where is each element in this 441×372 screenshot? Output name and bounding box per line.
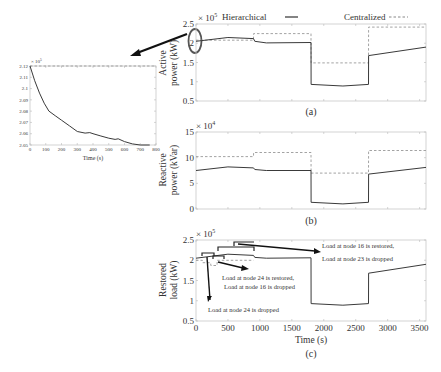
y-tick-label: 2.11 xyxy=(19,75,28,80)
panel-a: 0.511.522.5 × 105 Active power (kW) (a) … xyxy=(158,12,426,118)
svg-text:power (kVar): power (kVar) xyxy=(169,145,180,195)
panel-a-caption: (a) xyxy=(305,106,316,118)
y-tick-label: 2.12 xyxy=(19,64,28,69)
y-tick-label: 15 xyxy=(185,127,195,137)
y-tick-label: 1.5 xyxy=(183,58,195,68)
panel-b-ylabel: Reactive power (kVar) xyxy=(158,145,180,195)
svg-text:power (kW): power (kW) xyxy=(169,40,180,86)
x-tick-label: 0 xyxy=(194,323,199,333)
x-tick-label: 300 xyxy=(74,147,82,152)
y-tick-label: 2 xyxy=(190,38,195,48)
y-tick-label: 2.05 xyxy=(19,143,28,148)
y-tick-label: 1.5 xyxy=(183,276,195,286)
arrow-head-icon xyxy=(207,296,212,302)
annotation-node24-dropped: Load at node 24 is dropped xyxy=(208,306,280,313)
panel-a-ylabel: Active power (kW) xyxy=(158,40,180,86)
svg-text:Active: Active xyxy=(158,50,168,75)
y-tick-label: 5 xyxy=(190,178,195,188)
annotation-node16-restored: Load at node 16 is restored, xyxy=(322,242,395,249)
annotation-node24-restored: Load at node 24 is restored, xyxy=(222,274,295,281)
y-tick-label: 2 xyxy=(190,255,195,265)
x-tick-label: 3500 xyxy=(411,323,430,333)
legend-centralized-label: Centralized xyxy=(344,12,386,22)
arrow-head-icon xyxy=(314,248,321,254)
panel-b-caption: (b) xyxy=(305,215,317,227)
panel-c-exponent: × 105 xyxy=(196,228,215,239)
panel-c: 0.511.522.50500100015002000250030003500 … xyxy=(158,228,429,360)
panel-c-brackets xyxy=(202,242,321,302)
y-tick-label: 2.08 xyxy=(19,109,28,114)
y-tick-label: 10 xyxy=(185,153,195,163)
panel-c-xlabel: Time (s) xyxy=(295,335,327,346)
x-tick-label: 2000 xyxy=(315,323,334,333)
y-tick-label: 1 xyxy=(190,77,195,87)
svg-text:load (kW): load (kW) xyxy=(169,261,180,300)
x-tick-label: 200 xyxy=(58,147,66,152)
y-tick-label: 2.09 xyxy=(19,98,28,103)
y-tick-label: 2.06 xyxy=(19,131,28,136)
x-tick-label: 100 xyxy=(42,147,50,152)
x-tick-label: 3000 xyxy=(379,323,398,333)
panel-b-exponent: × 104 xyxy=(196,120,215,131)
y-tick-label: 2.1 xyxy=(22,86,29,91)
panel-a-hierarchical-line xyxy=(196,38,426,87)
annotation-node23-dropped: Load at node 23 is dropped xyxy=(322,255,394,262)
annotation-node16-dropped: Load at node 16 is dropped xyxy=(224,283,296,290)
figure-canvas: 2.052.062.072.082.092.12.112.12010020030… xyxy=(0,0,441,372)
x-tick-label: 0 xyxy=(29,147,32,152)
y-tick-label: 2.5 xyxy=(183,19,195,29)
panel-b: 051015 × 104 Reactive power (kVar) (b) xyxy=(158,120,426,227)
inset-ticks: 2.052.062.072.082.092.12.112.12010020030… xyxy=(19,64,160,152)
y-tick-label: 2.5 xyxy=(183,235,195,245)
panel-c-ylabel: Restored load (kW) xyxy=(158,261,180,300)
y-tick-label: 2.07 xyxy=(19,120,28,125)
x-tick-label: 600 xyxy=(121,147,129,152)
y-tick-label: 0 xyxy=(190,204,195,214)
y-tick-label: 1 xyxy=(190,296,195,306)
y-tick-label: 0.5 xyxy=(183,96,195,106)
x-tick-label: 2500 xyxy=(347,323,366,333)
panel-a-exponent: × 105 xyxy=(198,12,217,23)
panel-c-caption: (c) xyxy=(305,348,316,360)
inset-xlabel: Time (s) xyxy=(83,155,103,162)
inset-hierarchical-line xyxy=(30,66,150,145)
x-tick-label: 500 xyxy=(105,147,113,152)
arrow-head-icon xyxy=(241,265,249,271)
inset-exponent: × 105 xyxy=(31,58,42,64)
inset-plot: 2.052.062.072.082.092.12.112.12010020030… xyxy=(19,58,160,162)
x-tick-label: 400 xyxy=(89,147,97,152)
x-tick-label: 500 xyxy=(221,323,235,333)
panel-c-centralized-line xyxy=(196,260,254,265)
legend: Hierarchical Centralized xyxy=(222,12,408,22)
legend-hierarchical-label: Hierarchical xyxy=(222,12,267,22)
x-tick-label: 1500 xyxy=(283,323,302,333)
svg-text:Restored: Restored xyxy=(158,263,168,297)
inset-axes-frame xyxy=(30,66,156,145)
panel-b-hierarchical-line xyxy=(196,167,426,204)
y-tick-label: 0.5 xyxy=(183,316,195,326)
x-tick-label: 700 xyxy=(137,147,145,152)
arrow-head-icon xyxy=(130,49,141,56)
x-tick-label: 1000 xyxy=(251,323,270,333)
panel-b-centralized-line xyxy=(196,151,426,174)
svg-text:Reactive: Reactive xyxy=(158,153,168,186)
x-tick-label: 800 xyxy=(152,147,160,152)
